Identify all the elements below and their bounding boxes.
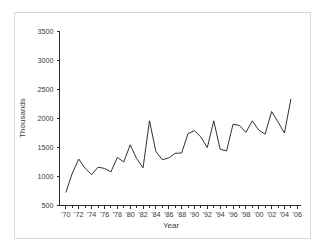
line-chart-plot: 500100015002000250030003500 '70'72'74'76…: [0, 0, 327, 252]
x-tick-label-78: '78: [113, 210, 122, 219]
axes-group: [60, 32, 301, 206]
y-tick-label-3000: 3000: [38, 56, 54, 65]
x-tick-label-82: '82: [138, 210, 147, 219]
x-axis-ticks: [66, 206, 297, 210]
x-tick-label-70: '70: [61, 210, 70, 219]
y-tick-label-1500: 1500: [38, 143, 54, 152]
y-axis-tick-labels: 500100015002000250030003500: [38, 27, 54, 210]
y-tick-label-500: 500: [42, 201, 54, 210]
chart-figure: 500100015002000250030003500 '70'72'74'76…: [0, 0, 327, 252]
x-tick-label-86: '86: [164, 210, 173, 219]
x-tick-label-98: '98: [241, 210, 250, 219]
x-tick-label-88: '88: [177, 210, 186, 219]
x-tick-label-90: '90: [190, 210, 199, 219]
data-line-thousands: [66, 99, 291, 192]
x-tick-label-80: '80: [126, 210, 135, 219]
x-tick-label-76: '76: [100, 210, 109, 219]
data-series-group: [66, 99, 291, 192]
y-axis-title: Thousands: [18, 98, 27, 138]
x-tick-label-06: '06: [293, 210, 302, 219]
x-tick-label-74: '74: [87, 210, 96, 219]
x-tick-label-00: '00: [254, 210, 263, 219]
y-tick-label-2000: 2000: [38, 114, 54, 123]
x-tick-label-84: '84: [151, 210, 160, 219]
x-axis-title: Year: [163, 221, 180, 230]
x-tick-label-96: '96: [228, 210, 237, 219]
y-tick-label-1000: 1000: [38, 172, 54, 181]
y-tick-label-3500: 3500: [38, 27, 54, 36]
x-tick-label-94: '94: [215, 210, 224, 219]
x-tick-label-92: '92: [203, 210, 212, 219]
x-tick-label-02: '02: [267, 210, 276, 219]
x-axis-tick-labels: '70'72'74'76'78'80'82'84'86'88'90'92'94'…: [61, 210, 302, 219]
x-tick-label-72: '72: [74, 210, 83, 219]
y-tick-label-2500: 2500: [38, 85, 54, 94]
x-tick-label-04: '04: [280, 210, 289, 219]
